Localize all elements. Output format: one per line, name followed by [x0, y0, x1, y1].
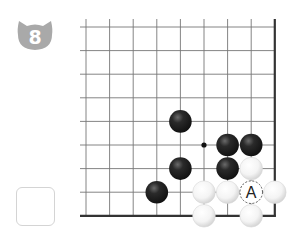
- black-stone: [216, 157, 239, 180]
- black-stone: [216, 134, 239, 157]
- marker-label: A: [246, 184, 257, 201]
- black-stone: [169, 110, 192, 133]
- white-stone: [216, 181, 239, 204]
- white-stone: [264, 181, 287, 204]
- black-stone: [169, 157, 192, 180]
- white-stone: [240, 205, 263, 228]
- white-stone: [193, 205, 216, 228]
- black-stone: [240, 134, 263, 157]
- black-stone: [146, 181, 169, 204]
- go-board[interactable]: A: [0, 0, 300, 245]
- white-stone: [240, 157, 263, 180]
- white-stone: [193, 181, 216, 204]
- star-point: [201, 142, 206, 147]
